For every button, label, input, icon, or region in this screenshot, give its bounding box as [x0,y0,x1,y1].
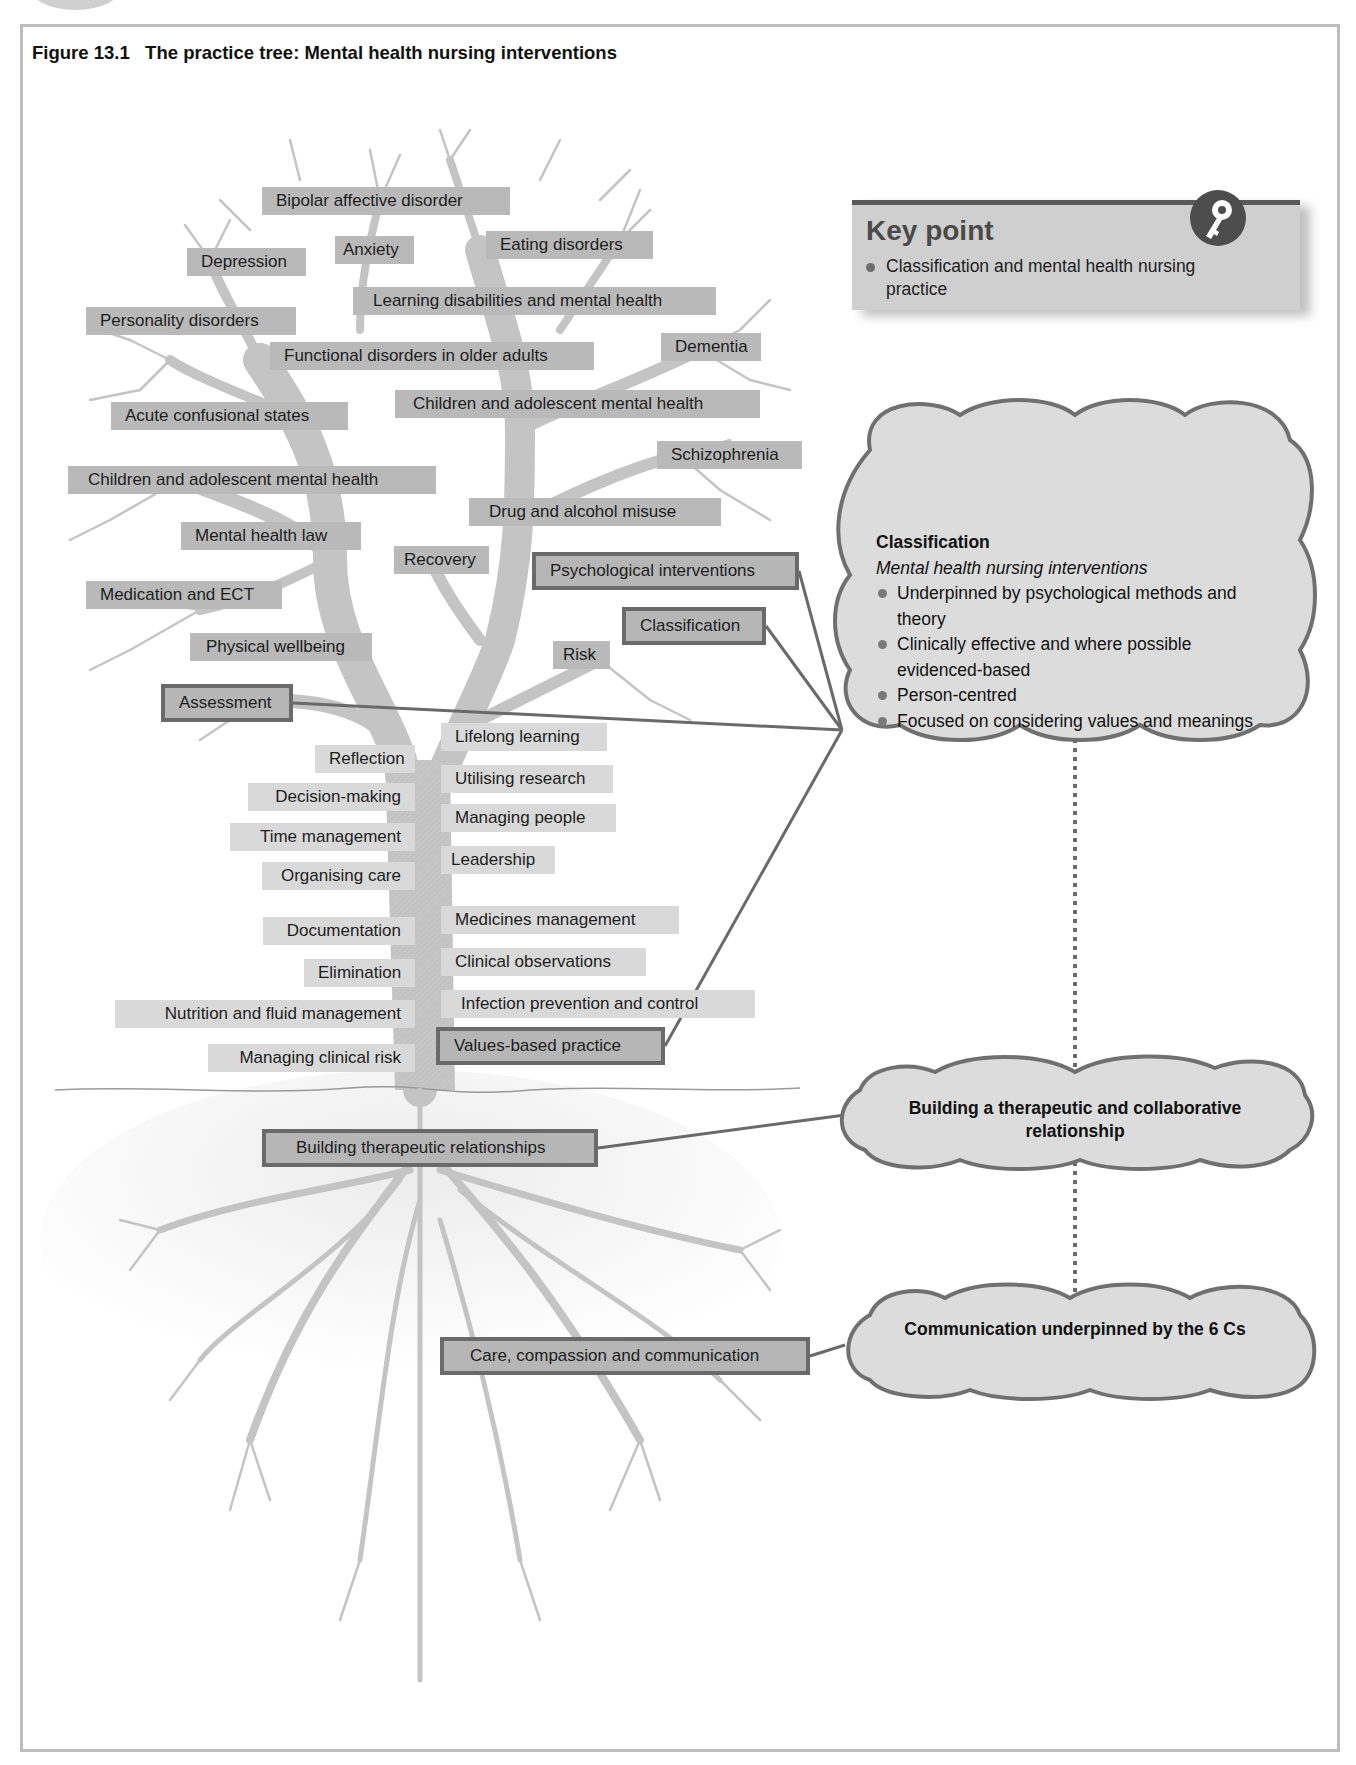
tree-label: Bipolar affective disorder [262,187,510,215]
tree-label: Risk [553,641,610,669]
trunk-label: Time management [230,823,415,851]
tree-label: Dementia [661,333,761,361]
tree-label: Learning disabilities and mental health [353,287,716,315]
tree-label: Medication and ECT [86,581,282,609]
trunk-label: Lifelong learning [441,723,607,751]
trunk-label: Decision-making [248,783,415,811]
cloud-communication [848,1285,1314,1400]
tree-label: Recovery [394,546,489,574]
trunk-label: Infection prevention and control [441,990,755,1018]
root-label-highlighted: Care, compassion and communication [440,1337,810,1375]
cloud-bullet: Underpinned by psychological methods and… [876,581,1256,632]
tree-label: Drug and alcohol misuse [469,498,721,526]
trunk-label: Managing people [441,804,616,832]
cloud-bullet-list: Underpinned by psychological methods and… [876,581,1256,734]
classification-cloud-text: Classification Mental health nursing int… [876,530,1256,734]
tree-label: Children and adolescent mental health [68,466,436,494]
tree-label: Mental health law [181,522,361,550]
tree-label: Acute confusional states [111,402,348,430]
tree-label: Personality disorders [86,307,296,335]
root-label-highlighted: Building therapeutic relationships [262,1129,598,1167]
tree-label: Anxiety [335,236,414,264]
tree-label-highlighted: Assessment [161,684,293,722]
trunk-label: Reflection [315,745,415,773]
tree-label-highlighted: Classification [622,607,766,645]
trunk-label: Organising care [262,862,415,890]
tree-label: Children and adolescent mental health [395,390,760,418]
trunk-label: Managing clinical risk [208,1044,415,1072]
trunk-label: Leadership [441,846,555,874]
tree-label: Functional disorders in older adults [270,342,594,370]
key-point-item: Classification and mental health nursing… [886,255,1246,301]
tree-label: Depression [187,248,306,276]
cloud-heading: Classification [876,530,1256,556]
tree-label: Schizophrenia [657,441,802,469]
trunk-label-highlighted: Values-based practice [436,1027,665,1065]
key-icon [1190,190,1246,246]
trunk-label: Elimination [304,959,415,987]
cloud-bullet: Focused on considering values and meanin… [876,709,1256,735]
cloud-subheading: Mental health nursing interventions [876,556,1256,582]
trunk-label: Medicines management [441,906,679,934]
trunk-label: Nutrition and fluid management [115,1000,415,1028]
relationship-cloud-text: Building a therapeutic and collaborative… [900,1097,1250,1143]
communication-cloud-text: Communication underpinned by the 6 Cs [900,1318,1250,1341]
trunk-label: Clinical observations [441,948,646,976]
bullet-icon [866,263,875,272]
key-point-title: Key point [866,215,994,247]
trunk-label: Documentation [263,917,415,945]
cloud-bullet: Clinically effective and where possible … [876,632,1256,683]
cloud-bullet: Person-centred [876,683,1256,709]
tree-label: Physical wellbeing [190,633,372,661]
tree-label: Eating disorders [486,231,653,259]
tree-label-highlighted: Psychological interventions [532,552,799,590]
trunk-label: Utilising research [441,765,613,793]
